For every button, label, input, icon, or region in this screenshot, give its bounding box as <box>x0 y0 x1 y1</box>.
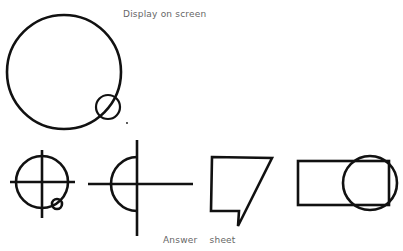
display-figure <box>7 15 128 129</box>
answer-figure-rectangle-circle <box>298 156 397 210</box>
figure-canvas <box>0 0 403 251</box>
quadrilateral-shape <box>211 157 272 226</box>
answer-figure-half-circle <box>88 140 193 236</box>
dot <box>126 122 128 124</box>
answer-figure-quadrilateral <box>211 157 272 226</box>
answer-figure-cross-circle <box>10 150 75 218</box>
answer-sheet-label: Answer sheet <box>163 235 236 245</box>
large-circle <box>7 15 121 129</box>
